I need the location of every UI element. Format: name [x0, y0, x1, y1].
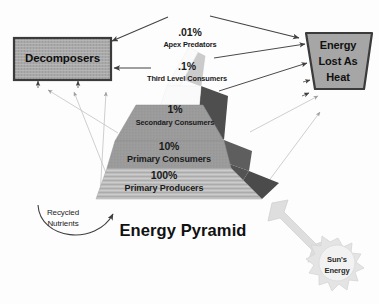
heat-label-line2: Lost As: [306, 54, 370, 68]
tier-label-secondary-consumers: Secondary Consumers: [123, 119, 227, 127]
recycled-label-line2: Nutrients: [31, 219, 95, 229]
tier-percent-primary-consumers: 10%: [134, 141, 204, 152]
heat-label-line1: Energy: [306, 38, 370, 52]
diagram-title: Energy Pyramid: [108, 222, 258, 240]
heat-label-line3: Heat: [306, 70, 370, 84]
tier-label-apex-predators: Apex Predators: [148, 41, 232, 49]
tier-percent-secondary: 1%: [140, 104, 210, 115]
tier-label-primary-producers: Primary Producers: [108, 184, 220, 194]
tier-label-primary-consumers: Primary Consumers: [113, 155, 225, 165]
energy-pyramid-diagram: .01% Apex Predators .1% Third Level Cons…: [0, 0, 379, 304]
pyramid-to-heat-arrows: [214, 44, 307, 91]
decomposers-label: Decomposers: [14, 52, 111, 64]
recycled-label-line1: Recycled: [31, 208, 95, 218]
sun-label-line2: Energy: [313, 266, 361, 275]
tier-percent-third-level: .1%: [152, 61, 222, 72]
sun-label-line1: Sun's: [313, 255, 361, 264]
tier-percent-apex: .01%: [155, 27, 225, 38]
tier-label-third-level-consumers: Third Level Consumers: [135, 75, 239, 83]
decomposers-inflow-ticks: [38, 81, 78, 88]
tier-percent-primary-producers: 100%: [129, 170, 199, 181]
